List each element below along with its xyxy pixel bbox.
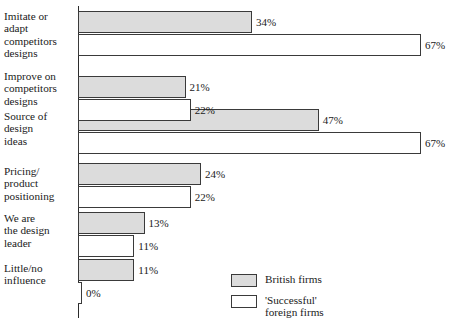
category-label-line: competitors: [4, 35, 76, 47]
category-label: Improve oncompetitorsdesigns: [4, 70, 76, 107]
bar-value-label: 22%: [195, 105, 215, 116]
category-label-line: designs: [4, 95, 76, 107]
bar-value-label: 47%: [323, 115, 343, 126]
bar-value-label: 11%: [138, 241, 158, 252]
bar-value-label: 0%: [86, 288, 101, 299]
bar-chart: Imitate oradaptcompetitorsdesignsImprove…: [0, 0, 456, 324]
category-label-line: Pricing/: [4, 165, 76, 177]
chart-legend: British firms 'Successful' foreign firms: [231, 273, 324, 324]
category-label: We arethe designleader: [4, 212, 76, 249]
category-label-line: We are: [4, 212, 76, 224]
legend-item-british: British firms: [231, 273, 324, 287]
category-label-line: design: [4, 122, 76, 134]
category-label-line: leader: [4, 237, 76, 249]
category-label-line: product: [4, 177, 76, 189]
category-label-line: ideas: [4, 135, 76, 147]
category-label-line: Improve on: [4, 70, 76, 82]
category-label-line: Source of: [4, 110, 76, 122]
bar-value-label: 13%: [149, 218, 169, 229]
bar-british: [78, 163, 201, 185]
category-label: Little/noinfluence: [4, 262, 76, 287]
bar-value-label: 24%: [205, 169, 225, 180]
bar-british: [78, 76, 186, 98]
bar-value-label: 22%: [195, 192, 215, 203]
legend-item-foreign: 'Successful' foreign firms: [231, 294, 324, 318]
category-label-line: influence: [4, 274, 76, 286]
bar-foreign: [78, 99, 191, 121]
bar-value-label: 67%: [425, 40, 445, 51]
bar-british: [78, 212, 145, 234]
category-label-line: adapt: [4, 22, 76, 34]
category-label: Source ofdesignideas: [4, 110, 76, 147]
bar-value-label: 11%: [138, 265, 158, 276]
legend-swatch-foreign-firms: [231, 295, 257, 308]
bar-foreign: [78, 235, 134, 257]
category-label-line: competitors: [4, 82, 76, 94]
category-label: Pricing/productpositioning: [4, 165, 76, 202]
category-label-line: Little/no: [4, 262, 76, 274]
legend-label-foreign-firms: 'Successful' foreign firms: [265, 294, 324, 318]
category-label: Imitate oradaptcompetitorsdesigns: [4, 10, 76, 60]
bar-foreign: [78, 132, 421, 154]
category-label-line: the design: [4, 224, 76, 236]
bar-foreign: [78, 34, 421, 56]
category-label-line: positioning: [4, 190, 76, 202]
bar-foreign: [78, 282, 82, 304]
bar-value-label: 34%: [256, 17, 276, 28]
bar-value-label: 21%: [190, 82, 210, 93]
bar-foreign: [78, 186, 191, 208]
bar-british: [78, 259, 134, 281]
legend-swatch-british-firms: [231, 274, 257, 287]
bar-value-label: 67%: [425, 138, 445, 149]
legend-label-british-firms: British firms: [265, 273, 322, 285]
category-label-line: designs: [4, 47, 76, 59]
bar-british: [78, 11, 252, 33]
category-label-line: Imitate or: [4, 10, 76, 22]
